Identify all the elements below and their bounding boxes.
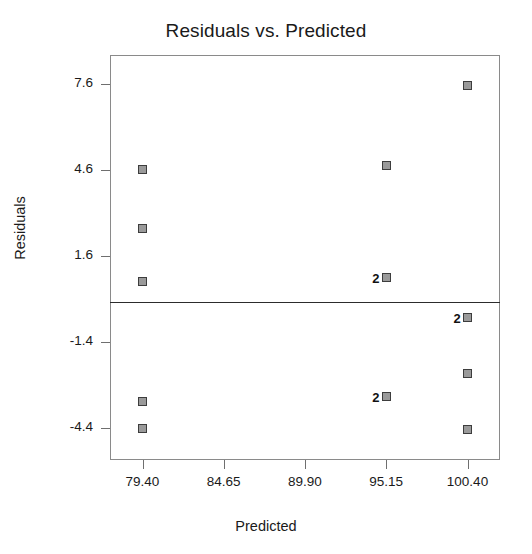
x-axis-tick-mark	[305, 460, 306, 469]
y-axis-label: Residuals	[12, 168, 28, 288]
y-axis-tick-label: 7.6	[30, 75, 93, 90]
x-axis-tick-mark	[386, 460, 387, 469]
data-point-count-label: 2	[372, 272, 379, 285]
plot-area	[110, 55, 500, 460]
y-axis-tick-mark	[101, 342, 110, 343]
x-axis-tick-label: 79.40	[98, 474, 188, 489]
chart-canvas: Residuals vs. Predicted Residuals 7.64.6…	[0, 0, 532, 554]
y-axis-tick-label: 1.6	[30, 247, 93, 262]
data-point-marker	[138, 224, 147, 233]
data-point-count-label: 2	[372, 391, 379, 404]
y-axis-tick-label: -4.4	[30, 419, 93, 434]
data-point-marker	[463, 425, 472, 434]
y-axis-tick-mark	[101, 84, 110, 85]
data-point-marker	[138, 397, 147, 406]
data-point-marker	[382, 161, 391, 170]
x-axis-tick-label: 100.40	[423, 474, 513, 489]
data-point-count-label: 2	[454, 312, 461, 325]
data-point-marker	[382, 273, 391, 282]
x-axis-tick-label: 89.90	[260, 474, 350, 489]
zero-reference-line	[110, 302, 500, 303]
y-axis-tick-mark	[101, 170, 110, 171]
data-point-marker	[138, 424, 147, 433]
data-point-marker	[382, 392, 391, 401]
page-title: Residuals vs. Predicted	[0, 20, 532, 42]
x-axis-tick-label: 95.15	[341, 474, 431, 489]
y-axis-tick-mark	[101, 256, 110, 257]
data-point-marker	[463, 81, 472, 90]
y-axis-tick-label: -1.4	[30, 333, 93, 348]
y-axis-tick-label: 4.6	[30, 161, 93, 176]
x-axis-label: Predicted	[0, 518, 532, 534]
x-axis-tick-mark	[143, 460, 144, 469]
data-point-marker	[138, 277, 147, 286]
data-point-marker	[463, 313, 472, 322]
y-axis-tick-mark	[101, 428, 110, 429]
data-point-marker	[138, 165, 147, 174]
x-axis-tick-mark	[468, 460, 469, 469]
x-axis-tick-label: 84.65	[179, 474, 269, 489]
data-point-marker	[463, 369, 472, 378]
x-axis-tick-mark	[224, 460, 225, 469]
